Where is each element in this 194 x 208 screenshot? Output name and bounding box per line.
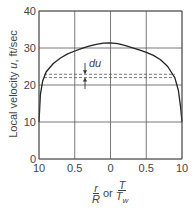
y-axis-label-var: u	[7, 63, 19, 69]
y-axis-label: Local velocity u, ft/sec	[7, 19, 19, 149]
du-annotation-label: du	[89, 57, 101, 69]
x-tick-label: 0.5	[67, 162, 82, 174]
y-tick-label: 40	[24, 5, 36, 17]
x-tick-label: 10	[33, 162, 45, 174]
y-tick-label: 30	[24, 42, 36, 54]
y-axis-label-units: , ft/sec	[7, 30, 19, 62]
T-over-Tw-fraction: T Tw	[116, 180, 129, 206]
x-tick-label: 0.5	[139, 162, 154, 174]
y-tick-label: 10	[24, 116, 36, 128]
y-axis-label-prefix: Local velocity	[7, 69, 19, 138]
arrow-down-icon	[83, 70, 87, 74]
r-over-R-fraction: r R	[92, 183, 100, 204]
y-tick-label: 20	[24, 79, 36, 91]
velocity-profile-chart: 010203040100.500.510	[0, 0, 194, 208]
x-axis-label-or: or	[103, 187, 113, 199]
arrow-up-icon	[83, 78, 87, 82]
x-tick-label: 0	[107, 162, 113, 174]
x-tick-label: 10	[176, 162, 188, 174]
fraction-denominator: R	[92, 194, 100, 204]
x-axis-label: r R or T Tw	[92, 180, 128, 206]
fraction-denominator: Tw	[116, 191, 129, 206]
fraction-numerator: r	[93, 183, 99, 194]
